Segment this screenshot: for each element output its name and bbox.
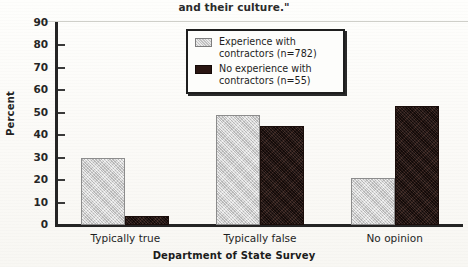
bar-experience xyxy=(351,178,395,225)
y-axis-tick-label: 40 xyxy=(18,128,48,140)
x-axis-category-label: Typically true xyxy=(58,232,193,244)
x-axis-category-label: Typically false xyxy=(193,232,328,244)
y-axis-tick-label: 0 xyxy=(18,218,48,230)
y-axis-tick-mark xyxy=(58,67,65,69)
y-axis-tick-mark xyxy=(58,202,65,204)
y-axis-tick-label: 80 xyxy=(18,38,48,50)
y-axis-tick-label: 50 xyxy=(18,106,48,118)
legend-item-experience: Experience with contractors (n=782) xyxy=(194,36,337,59)
y-axis-tick-label: 90 xyxy=(18,16,48,28)
y-axis-tick-label: 60 xyxy=(18,83,48,95)
legend-item-no-experience: No experience with contractors (n=55) xyxy=(194,63,337,86)
legend-label-experience: Experience with contractors (n=782) xyxy=(219,36,317,59)
legend-swatch-dark-brown-icon xyxy=(195,65,212,74)
y-axis-tick-mark xyxy=(58,134,65,136)
legend-label-experience-line1: Experience with xyxy=(219,36,296,47)
y-axis-tick-mark xyxy=(58,112,65,114)
bar-experience xyxy=(216,115,260,225)
y-axis-tick-mark xyxy=(58,157,65,159)
x-axis-title: Department of State Survey xyxy=(0,250,468,261)
bar-chart: Percent 9080706050403020100 Typically tr… xyxy=(0,0,468,267)
y-axis-tick-label: 20 xyxy=(18,173,48,185)
y-axis-title: Percent xyxy=(5,84,16,144)
bar-experience xyxy=(81,158,125,225)
y-axis-tick-mark xyxy=(58,179,65,181)
bar-no-experience xyxy=(395,106,439,225)
bar-no-experience xyxy=(260,126,304,225)
legend-label-experience-line2: contractors (n=782) xyxy=(219,48,317,59)
bar-no-experience xyxy=(125,216,169,225)
y-axis-tick-label: 30 xyxy=(18,151,48,163)
y-axis-tick-mark xyxy=(58,44,65,46)
legend-label-no-experience: No experience with contractors (n=55) xyxy=(219,63,312,86)
y-axis-tick-mark xyxy=(58,89,65,91)
chart-legend: Experience with contractors (n=782) No e… xyxy=(186,29,345,94)
legend-label-no-experience-line2: contractors (n=55) xyxy=(219,75,311,86)
y-axis-tick-label: 10 xyxy=(18,196,48,208)
legend-swatch-light-gray-icon xyxy=(195,38,212,47)
y-axis-tick-label: 70 xyxy=(18,61,48,73)
y-axis-line xyxy=(55,22,58,227)
legend-label-no-experience-line1: No experience with xyxy=(219,63,312,74)
x-axis-category-label: No opinion xyxy=(327,232,462,244)
